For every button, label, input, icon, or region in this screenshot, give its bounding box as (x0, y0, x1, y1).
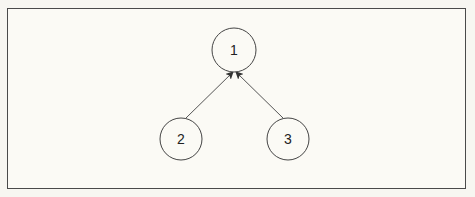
node-1-label: 1 (230, 42, 238, 58)
node-3: 3 (267, 118, 309, 160)
node-1: 1 (212, 28, 256, 72)
edge-2-to-1 (186, 72, 233, 118)
tree-diagram: 1 2 3 (0, 0, 475, 197)
node-3-label: 3 (284, 131, 292, 147)
node-2-label: 2 (177, 131, 185, 147)
node-2: 2 (160, 118, 202, 160)
edge-3-to-1 (236, 72, 283, 118)
